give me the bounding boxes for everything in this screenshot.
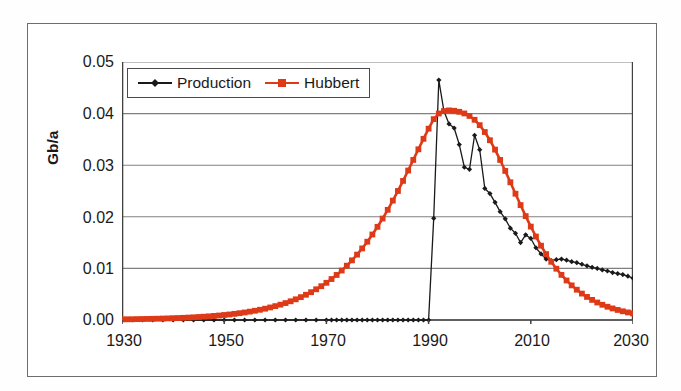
data-point <box>375 317 380 322</box>
data-point <box>370 317 375 322</box>
data-point <box>559 272 565 278</box>
data-point <box>554 257 559 262</box>
data-point <box>390 198 396 204</box>
data-point <box>221 312 227 318</box>
data-point <box>559 257 564 262</box>
data-point <box>400 178 406 184</box>
data-point <box>615 271 620 276</box>
data-point <box>564 258 569 263</box>
data-point <box>548 259 554 265</box>
series-markers-hubbert <box>122 108 633 323</box>
data-point <box>584 263 589 268</box>
data-point <box>201 314 207 320</box>
data-point <box>329 276 335 282</box>
series-line-production <box>122 80 633 320</box>
data-point <box>186 315 192 321</box>
data-point <box>431 116 437 122</box>
axis-lines <box>122 62 633 320</box>
data-point <box>334 317 339 322</box>
data-point <box>472 133 477 138</box>
diamond-icon <box>151 79 159 87</box>
data-point <box>360 317 365 322</box>
data-point <box>630 276 633 281</box>
data-point <box>303 317 308 322</box>
data-point <box>364 239 370 245</box>
data-point <box>380 317 385 322</box>
data-point <box>579 262 584 267</box>
data-point <box>426 126 432 132</box>
square-icon <box>278 79 286 87</box>
data-point <box>594 300 600 306</box>
data-point <box>211 313 217 319</box>
data-point <box>329 317 334 322</box>
data-point <box>344 317 349 322</box>
data-point <box>303 292 309 298</box>
data-point <box>584 294 590 300</box>
data-point <box>441 108 447 114</box>
chart-figure: Gb/a 0.05 0.04 0.03 0.02 0.01 0.00 1930 … <box>0 0 681 391</box>
x-tick-label-2010: 2010 <box>497 332 567 350</box>
data-point <box>477 122 483 128</box>
data-point <box>339 268 345 274</box>
data-point <box>150 316 156 322</box>
data-point <box>232 311 238 317</box>
data-point <box>196 314 202 320</box>
data-point <box>324 280 330 286</box>
data-point <box>262 317 267 322</box>
data-point <box>451 108 457 114</box>
data-point <box>595 266 600 271</box>
data-point <box>406 317 411 322</box>
data-point <box>461 111 467 117</box>
data-point <box>278 302 284 308</box>
data-point <box>369 232 375 238</box>
data-point <box>385 207 391 213</box>
data-point <box>457 142 462 147</box>
data-point <box>513 191 519 197</box>
data-point <box>416 317 421 322</box>
data-point <box>456 109 462 115</box>
data-point <box>170 315 176 321</box>
data-point <box>375 224 381 230</box>
data-point <box>252 317 257 322</box>
data-point <box>518 202 524 208</box>
data-point <box>410 157 416 163</box>
data-point <box>405 168 411 174</box>
data-point <box>436 111 442 117</box>
data-point <box>288 298 294 304</box>
plot-canvas <box>122 62 633 324</box>
data-point <box>293 296 299 302</box>
data-point <box>344 263 350 269</box>
data-point <box>252 308 258 314</box>
data-point <box>574 260 579 265</box>
data-point <box>313 286 319 292</box>
data-point <box>610 306 616 312</box>
series-line-hubbert <box>122 110 633 319</box>
data-point <box>472 117 478 123</box>
data-point <box>160 316 166 322</box>
data-point <box>482 129 488 135</box>
data-point <box>272 303 278 309</box>
data-point <box>237 310 243 316</box>
data-point <box>380 216 386 222</box>
data-point <box>349 317 354 322</box>
data-point <box>339 317 344 322</box>
data-point <box>129 316 135 322</box>
data-point <box>605 268 610 273</box>
data-point <box>140 316 146 322</box>
data-point <box>620 308 626 314</box>
data-point <box>569 259 574 264</box>
data-point <box>314 317 319 322</box>
data-point <box>165 316 171 322</box>
data-point <box>308 289 314 295</box>
data-point <box>293 317 298 322</box>
data-point <box>216 313 222 319</box>
data-series-layer <box>122 77 633 322</box>
data-point <box>507 179 513 185</box>
x-tick-label-1970: 1970 <box>293 332 363 350</box>
data-point <box>415 146 421 152</box>
data-point <box>625 310 631 316</box>
data-point <box>487 137 493 143</box>
data-point <box>625 274 630 279</box>
data-point <box>421 317 426 322</box>
data-point <box>446 108 452 114</box>
